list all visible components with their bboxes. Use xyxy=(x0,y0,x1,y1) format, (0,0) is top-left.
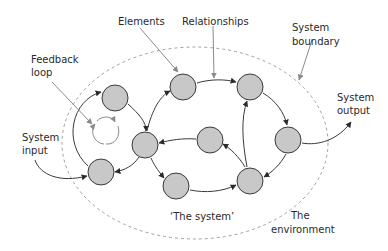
relationships xyxy=(35,80,351,192)
node-a xyxy=(102,85,128,111)
label-input-1: System xyxy=(22,132,59,143)
edge-a-to-c xyxy=(128,104,146,131)
edge-e-to-h xyxy=(263,93,287,125)
edge-h-to-i xyxy=(264,154,286,177)
edge-b-to-a xyxy=(73,92,101,166)
label-output-2: output xyxy=(337,105,370,116)
edge-d-to-e xyxy=(197,80,236,83)
label-boundary-1: System xyxy=(292,22,329,33)
label-boundary-2: boundary xyxy=(292,36,340,47)
edge-c-to-b xyxy=(115,157,139,172)
node-e xyxy=(237,74,263,100)
system-diagram: Elements Relationships Feedback loop Sys… xyxy=(0,0,388,251)
label-output-1: System xyxy=(337,92,374,103)
edge-i-to-f xyxy=(223,144,245,167)
edge-f-to-c xyxy=(159,139,196,143)
pointer-elements xyxy=(140,28,178,72)
elements xyxy=(88,74,301,199)
label-environment-2: environment xyxy=(271,224,335,235)
label-elements: Elements xyxy=(118,16,165,27)
node-b xyxy=(88,159,114,185)
pointer-feedback xyxy=(52,82,92,124)
edge-c-to-d xyxy=(147,91,170,131)
edge-input-to-b xyxy=(35,160,87,179)
node-i xyxy=(237,168,263,194)
feedback-loop-circle xyxy=(93,117,119,144)
label-feedback-1: Feedback xyxy=(31,54,79,65)
label-relationships: Relationships xyxy=(182,16,249,27)
node-g xyxy=(163,173,189,199)
label-the-system: ‘The system’ xyxy=(170,211,234,222)
node-c xyxy=(132,132,158,158)
node-d xyxy=(170,74,196,100)
label-input-2: input xyxy=(22,145,48,156)
node-f xyxy=(197,127,223,153)
edge-g-to-i xyxy=(190,185,236,192)
pointer-relationships xyxy=(213,26,214,78)
edge-i-to-e xyxy=(243,101,247,167)
edge-c-to-g xyxy=(151,158,164,178)
edge-h-to-output xyxy=(302,122,351,144)
label-environment-1: The xyxy=(290,210,310,221)
node-h xyxy=(275,127,301,153)
label-feedback-2: loop xyxy=(31,67,52,78)
